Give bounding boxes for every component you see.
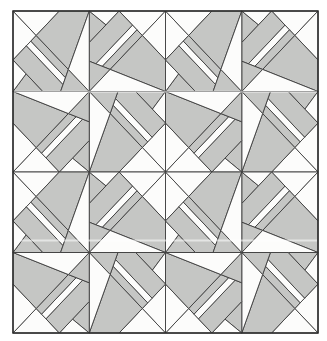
quilt-pattern	[0, 0, 327, 341]
quilt-block-r1-c1	[166, 172, 319, 333]
quilt-block-r1-c0	[13, 172, 166, 333]
quilt-pattern-page	[0, 0, 327, 341]
